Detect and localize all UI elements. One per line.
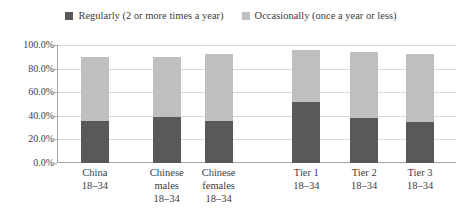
stacked-bar[interactable]	[350, 52, 378, 163]
x-axis-label-line: Chinese	[193, 166, 245, 179]
x-axis-label-line: 18–34	[69, 179, 121, 192]
bar-segment[interactable]	[153, 57, 181, 117]
bar-segment[interactable]	[292, 102, 320, 163]
bar-segment[interactable]	[292, 50, 320, 102]
x-axis-label: Tier 118–34	[280, 166, 332, 192]
bar-group	[394, 45, 446, 163]
x-axis-label-line: females	[193, 179, 245, 192]
x-axis-label: Tier 318–34	[394, 166, 446, 192]
y-tick-label: 80.0%	[28, 64, 54, 74]
legend-entry-regularly: Regularly (2 or more times a year)	[65, 10, 223, 21]
legend-swatch-icon-regularly	[65, 12, 73, 20]
bar-group	[338, 45, 390, 163]
x-axis-label-line: Tier 2	[338, 166, 390, 179]
x-axis-label-line: 18–34	[338, 179, 390, 192]
y-tick-label: 20.0%	[28, 134, 54, 144]
x-axis-label-line: Chinese	[141, 166, 193, 179]
x-axis-labels: China18–34Chinesemales18–34Chinesefemale…	[57, 166, 456, 214]
bar-group	[69, 45, 121, 163]
x-axis-label-line: Tier 3	[394, 166, 446, 179]
bar-segment[interactable]	[81, 121, 109, 163]
x-axis-label-line: 18–34	[280, 179, 332, 192]
x-axis-label-line: 18–34	[394, 179, 446, 192]
x-axis-label: Tier 218–34	[338, 166, 390, 192]
plot-wrapper: 100.0% 80.0% 60.0% 40.0% 20.0% 0.0% Ch	[0, 38, 462, 214]
y-tick-label: 100.0%	[23, 40, 54, 50]
x-axis-label: Chinesefemales18–34	[193, 166, 245, 205]
x-axis-label-line: males	[141, 179, 193, 192]
stacked-bar[interactable]	[406, 54, 434, 163]
stacked-bar[interactable]	[205, 54, 233, 163]
x-axis-label-line: 18–34	[141, 192, 193, 205]
legend-label-regularly: Regularly (2 or more times a year)	[78, 10, 223, 21]
stacked-bar[interactable]	[292, 50, 320, 163]
stacked-bar[interactable]	[81, 57, 109, 163]
chart-legend: Regularly (2 or more times a year) Occas…	[0, 10, 462, 21]
bar-segment[interactable]	[205, 121, 233, 163]
x-axis-label: China18–34	[69, 166, 121, 192]
y-tick-label: 0.0%	[33, 158, 54, 168]
bar-segment[interactable]	[81, 57, 109, 121]
bar-segment[interactable]	[205, 54, 233, 120]
legend-label-occasionally: Occasionally (once a year or less)	[255, 10, 397, 21]
plot-area	[57, 45, 456, 163]
y-tick-label: 40.0%	[28, 111, 54, 121]
legend-entry-occasionally: Occasionally (once a year or less)	[242, 10, 397, 21]
bar-group	[280, 45, 332, 163]
x-axis-label: Chinesemales18–34	[141, 166, 193, 205]
y-axis-labels: 100.0% 80.0% 60.0% 40.0% 20.0% 0.0%	[0, 38, 54, 160]
stacked-bar-chart: Regularly (2 or more times a year) Occas…	[0, 0, 462, 214]
bar-segment[interactable]	[406, 54, 434, 121]
bar-segment[interactable]	[406, 122, 434, 163]
x-axis-label-line: Tier 1	[280, 166, 332, 179]
bar-group	[141, 45, 193, 163]
bars-container	[57, 45, 456, 163]
bar-segment[interactable]	[350, 118, 378, 163]
legend-swatch-icon-occasionally	[242, 12, 250, 20]
bar-segment[interactable]	[350, 52, 378, 118]
bar-group	[193, 45, 245, 163]
x-axis-label-line: 18–34	[193, 192, 245, 205]
y-tick-label: 60.0%	[28, 87, 54, 97]
stacked-bar[interactable]	[153, 57, 181, 163]
x-axis-label-line: China	[69, 166, 121, 179]
bar-segment[interactable]	[153, 117, 181, 163]
